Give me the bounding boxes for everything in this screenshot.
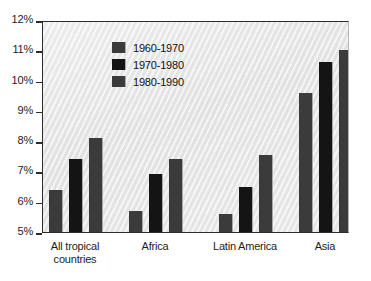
y-tick-label: 6%: [18, 195, 34, 207]
y-tick-label: 10%: [12, 74, 33, 86]
y-tick-mark: [36, 172, 42, 174]
bar: [339, 50, 349, 232]
bar: [259, 155, 273, 232]
bar: [219, 214, 233, 232]
y-tick-label: 8%: [18, 134, 34, 146]
x-axis-label: Asia: [275, 240, 371, 253]
y-tick-label: 9%: [18, 104, 34, 116]
bar-chart: 12%11%10%9%8%7%6%5% 1960-19701970-198019…: [0, 0, 371, 281]
y-tick-mark: [36, 142, 42, 144]
bar: [169, 159, 183, 232]
y-tick-mark: [36, 82, 42, 84]
chart-legend: 1960-19701970-19801980-1990: [112, 41, 184, 88]
y-tick-label: 7%: [18, 164, 34, 176]
bar: [89, 138, 103, 232]
y-tick-label: 11%: [12, 43, 33, 55]
y-tick-label: 5%: [18, 225, 34, 237]
y-tick-mark: [36, 112, 42, 114]
y-axis-tick: 6%: [0, 203, 42, 204]
legend-swatch-icon: [112, 42, 126, 53]
legend-swatch-icon: [112, 76, 126, 87]
legend-label: 1980-1990: [133, 76, 184, 88]
y-axis-tick: 8%: [0, 142, 42, 143]
bar: [149, 174, 163, 232]
bar: [69, 159, 83, 232]
y-axis-tick: 7%: [0, 172, 42, 173]
legend-item: 1980-1990: [112, 75, 184, 88]
y-tick-mark: [36, 203, 42, 205]
legend-item: 1960-1970: [112, 41, 184, 54]
y-axis-tick: 5%: [0, 233, 42, 234]
x-axis-label: Africa: [105, 240, 205, 253]
y-tick-mark: [36, 233, 42, 235]
plot-area: [42, 21, 349, 233]
y-tick-mark: [36, 21, 42, 23]
legend-swatch-icon: [112, 59, 126, 70]
y-axis-tick: 10%: [0, 82, 42, 83]
y-tick-label: 12%: [12, 13, 33, 25]
y-tick-mark: [36, 51, 42, 53]
y-axis-tick: 12%: [0, 21, 42, 22]
bar: [299, 93, 313, 232]
bar: [239, 187, 253, 232]
legend-label: 1960-1970: [133, 42, 184, 54]
legend-item: 1970-1980: [112, 58, 184, 71]
bar: [129, 211, 143, 232]
y-axis-tick: 11%: [0, 51, 42, 52]
bar: [319, 62, 333, 232]
legend-label: 1970-1980: [133, 59, 184, 71]
bar: [49, 190, 63, 232]
y-axis-tick: 9%: [0, 112, 42, 113]
